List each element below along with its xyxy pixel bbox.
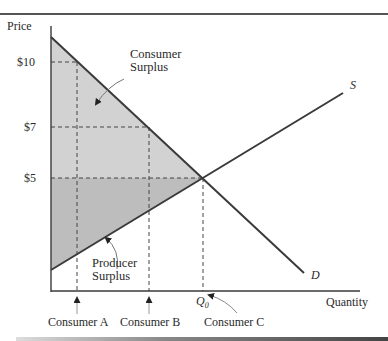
- y-tick-10: $10: [17, 56, 35, 69]
- x-axis-label: Quantity: [326, 296, 368, 309]
- producer-surplus-line2: Surplus: [92, 269, 130, 283]
- y-tick-7: $7: [24, 121, 36, 134]
- q0-label: Q0: [196, 295, 209, 312]
- supply-label: S: [350, 79, 356, 92]
- demand-label: D: [311, 269, 320, 282]
- y-axis-label: Price: [7, 20, 32, 33]
- producer-surplus-line1: Producer: [92, 256, 137, 270]
- bottom-rule: [16, 337, 388, 341]
- consumer-surplus-line2: Surplus: [130, 60, 168, 74]
- producer-surplus-label: Producer Surplus: [92, 257, 137, 283]
- consumer-surplus-label: Consumer Surplus: [130, 48, 181, 74]
- y-tick-5: $5: [24, 172, 36, 185]
- consumer-a-label: Consumer A: [48, 316, 108, 329]
- consumer-surplus-line1: Consumer: [130, 47, 181, 61]
- q0-main: Q: [196, 294, 205, 308]
- consumer-c-label: Consumer C: [204, 316, 264, 329]
- q0-subscript: 0: [205, 301, 209, 310]
- consumer-b-label: Consumer B: [120, 316, 180, 329]
- supply-demand-chart: [0, 0, 388, 341]
- consumer-c-arrow: [209, 295, 237, 313]
